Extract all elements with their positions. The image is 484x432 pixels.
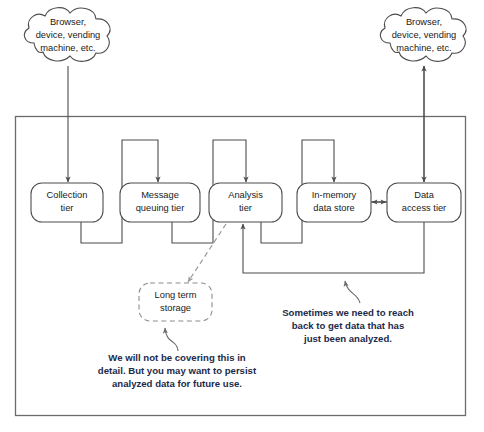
in-memory-data-store-label-line-2: data store <box>313 203 354 213</box>
cloud-left-line-3: machine, etc. <box>40 43 95 53</box>
analysis-tier-label-line-1: Analysis <box>228 190 263 200</box>
edge-data-access-tier-to-analysis-tier-feedback <box>243 222 424 273</box>
data-access-tier-label-line-1: Data <box>414 190 434 200</box>
architecture-diagram: Browser, device, vending machine, etc. B… <box>0 0 484 432</box>
message-queuing-tier-label-line-2: queuing tier <box>136 203 185 213</box>
node-message-queuing-tier[interactable]: Message queuing tier <box>120 183 200 222</box>
node-in-memory-data-store[interactable]: In-memory data store <box>297 183 371 222</box>
collection-tier-label-line-1: Collection <box>47 190 88 200</box>
node-analysis-tier[interactable]: Analysis tier <box>209 183 282 222</box>
diagram-canvas: Browser, device, vending machine, etc. B… <box>0 0 484 432</box>
edge-analysis-tier-to-long-term-storage <box>188 224 226 282</box>
cloud-right-line-3: machine, etc. <box>396 43 451 53</box>
long-term-storage-label-line-2: storage <box>160 303 191 313</box>
data-access-tier-label-line-2: access tier <box>402 203 446 213</box>
long-term-storage-label-line-1: Long term <box>155 290 197 300</box>
cloud-right-line-2: device, vending <box>392 30 457 40</box>
node-collection-tier[interactable]: Collection tier <box>31 183 103 222</box>
cloud-right-line-1: Browser, <box>406 17 442 27</box>
cloud-left-line-1: Browser, <box>50 17 86 27</box>
callout-long-term-storage-line-1: We will not be covering this in <box>108 352 245 363</box>
analysis-tier-label-line-2: tier <box>239 203 252 213</box>
leader-line-feedback-callout <box>345 281 360 303</box>
in-memory-data-store-label-line-1: In-memory <box>312 190 357 200</box>
callout-feedback-loop-line-2: back to get data that has <box>292 320 404 331</box>
message-queuing-tier-label-line-1: Message <box>141 190 179 200</box>
node-data-access-tier[interactable]: Data access tier <box>387 183 461 222</box>
callout-feedback-loop: Sometimes we need to reach back to get d… <box>282 307 414 344</box>
cloud-right: Browser, device, vending machine, etc. <box>380 8 466 62</box>
callout-feedback-loop-line-1: Sometimes we need to reach <box>282 307 414 318</box>
callout-feedback-loop-line-3: just been analyzed. <box>303 333 392 344</box>
leader-line-long-term-storage-callout <box>165 328 178 351</box>
callout-long-term-storage-line-3: analyzed data for future use. <box>112 378 242 389</box>
callout-long-term-storage-line-2: detail. But you may want to persist <box>98 365 257 376</box>
node-long-term-storage[interactable]: Long term storage <box>139 283 212 321</box>
cloud-left-line-2: device, vending <box>36 30 101 40</box>
cloud-left: Browser, device, vending machine, etc. <box>24 8 110 62</box>
callout-long-term-storage: We will not be covering this in detail. … <box>98 352 257 389</box>
collection-tier-label-line-2: tier <box>61 203 74 213</box>
